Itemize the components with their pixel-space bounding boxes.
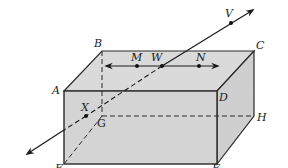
- prism-diagram: A B C D E F G H M W N V X: [0, 0, 288, 168]
- label-w: W: [151, 51, 164, 64]
- label-d: D: [218, 91, 228, 104]
- label-x: X: [80, 101, 90, 114]
- label-m: M: [130, 51, 143, 64]
- label-v: V: [225, 7, 234, 20]
- point-w: [160, 64, 164, 68]
- label-g: G: [97, 117, 106, 130]
- point-x: [84, 114, 88, 118]
- point-n: [197, 64, 201, 68]
- line-vx-lower-solid: [27, 130, 64, 154]
- label-h: H: [256, 111, 267, 124]
- label-b: B: [93, 37, 102, 50]
- point-v: [229, 21, 233, 25]
- label-n: N: [195, 51, 206, 64]
- point-m: [135, 64, 139, 68]
- label-f: F: [211, 162, 220, 168]
- label-c: C: [256, 39, 265, 52]
- label-e: E: [54, 162, 63, 168]
- label-a: A: [51, 84, 60, 97]
